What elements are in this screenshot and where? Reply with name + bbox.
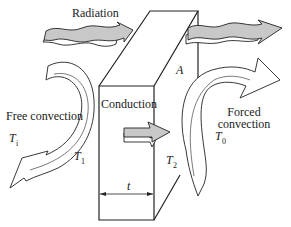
area-label: A [175,63,184,77]
temperature-outer-label: T 0 [215,129,226,146]
radiation-arrow-left [43,22,133,46]
radiation-arrow-right [186,20,282,44]
free-convection-arrow [10,62,94,188]
temperature-inner-label: T i [9,131,19,148]
forced-convection-label-line2: convection [218,117,271,131]
radiation-label: Radiation [72,6,119,20]
conduction-arrow [124,122,170,147]
free-convection-label: Free convection [6,109,83,123]
temperature-surface-1-label: T 1 [74,149,85,166]
conduction-label: Conduction [101,97,157,111]
svg-text:2: 2 [173,161,177,170]
heat-transfer-diagram: Radiation Free convection Conduction For… [0,0,291,227]
thickness-label: t [127,179,131,193]
svg-text:0: 0 [222,137,226,146]
svg-text:1: 1 [81,157,85,166]
svg-text:i: i [16,139,19,148]
slab-right-bottom-edge [154,175,180,220]
temperature-surface-2-label: T 2 [166,153,177,170]
